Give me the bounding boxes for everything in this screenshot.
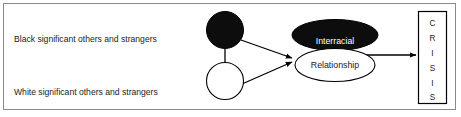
crisis-letter-5: S <box>430 93 436 102</box>
crisis-letter-3: S <box>430 64 436 73</box>
black-circle <box>207 12 244 49</box>
crisis-letter-2: I <box>431 49 433 58</box>
crisis-letter-0: C <box>430 19 436 28</box>
black-group-label: Black significant others and strangers <box>14 34 157 44</box>
diagram-canvas: Interracial Relationship Black significa… <box>0 0 461 117</box>
relationship-label: Relationship <box>311 60 360 70</box>
white-group-label: White significant others and strangers <box>14 87 158 97</box>
crisis-letter-1: R <box>430 34 436 43</box>
white-circle <box>207 63 244 100</box>
interracial-label: Interracial <box>316 36 355 46</box>
diagram-figure: Interracial Relationship Black significa… <box>0 0 461 117</box>
crisis-letter-4: I <box>431 79 433 88</box>
